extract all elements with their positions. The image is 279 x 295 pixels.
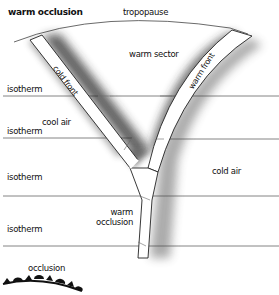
diagram-canvas (0, 0, 279, 295)
cold-front-band (30, 35, 138, 168)
warm-occlusion-label-line1: warm (103, 207, 133, 217)
occlusion-legend-label: occlusion (28, 263, 65, 273)
warm-occlusion-diagram: warm occlusion tropopause warm sector co… (0, 0, 279, 295)
isotherm-label-1: isotherm (7, 84, 42, 94)
isotherm-label-4: isotherm (7, 224, 42, 234)
occlusion-symbol (3, 275, 83, 291)
cool-air-label: cool air (42, 117, 71, 127)
warm-sector-label: warm sector (129, 49, 179, 59)
tropopause-label: tropopause (123, 7, 168, 17)
isotherm-label-3: isotherm (7, 172, 42, 182)
diagram-title: warm occlusion (8, 7, 83, 17)
isotherm-label-2: isotherm (7, 126, 42, 136)
cold-air-label: cold air (212, 166, 241, 176)
warm-occlusion-label-line2: occlusion (96, 217, 133, 227)
